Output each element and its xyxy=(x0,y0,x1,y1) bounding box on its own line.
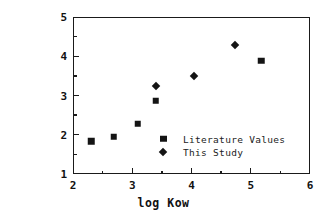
y-minor-tick xyxy=(73,36,77,37)
legend-label: This Study xyxy=(183,146,243,157)
y-minor-tick xyxy=(73,114,77,115)
x-minor-tick xyxy=(161,171,162,175)
x-minor-tick xyxy=(220,171,221,175)
y-major-tick xyxy=(73,95,79,96)
y-tick-label: 2 xyxy=(55,128,67,141)
x-minor-tick xyxy=(102,171,103,175)
x-tick-label: 2 xyxy=(70,179,77,192)
scatter-plot-figure: 2345612345 log Kow log Koc Literature Va… xyxy=(0,0,327,219)
x-tick-label: 5 xyxy=(247,179,254,192)
y-tick-label: 4 xyxy=(55,50,67,63)
y-tick-label: 1 xyxy=(55,168,67,181)
square-marker-icon xyxy=(160,135,167,142)
y-major-tick xyxy=(73,134,79,135)
data-point-square xyxy=(134,121,141,128)
y-minor-tick xyxy=(73,75,77,76)
x-tick-label: 3 xyxy=(129,179,136,192)
x-tick-label: 6 xyxy=(307,179,314,192)
x-axis-label: log Kow xyxy=(0,196,327,210)
x-minor-tick xyxy=(280,171,281,175)
legend-label: Literature Values xyxy=(183,133,285,144)
y-tick-label: 3 xyxy=(55,89,67,102)
data-point-square xyxy=(88,138,95,145)
data-point-square xyxy=(153,98,160,105)
x-major-tick xyxy=(250,168,251,174)
x-major-tick xyxy=(132,168,133,174)
y-major-tick xyxy=(73,56,79,57)
data-point-square xyxy=(258,58,265,65)
y-tick-label: 5 xyxy=(55,11,67,24)
x-tick-label: 4 xyxy=(188,179,195,192)
data-point-square xyxy=(111,133,118,140)
x-major-tick xyxy=(191,168,192,174)
y-minor-tick xyxy=(73,154,77,155)
